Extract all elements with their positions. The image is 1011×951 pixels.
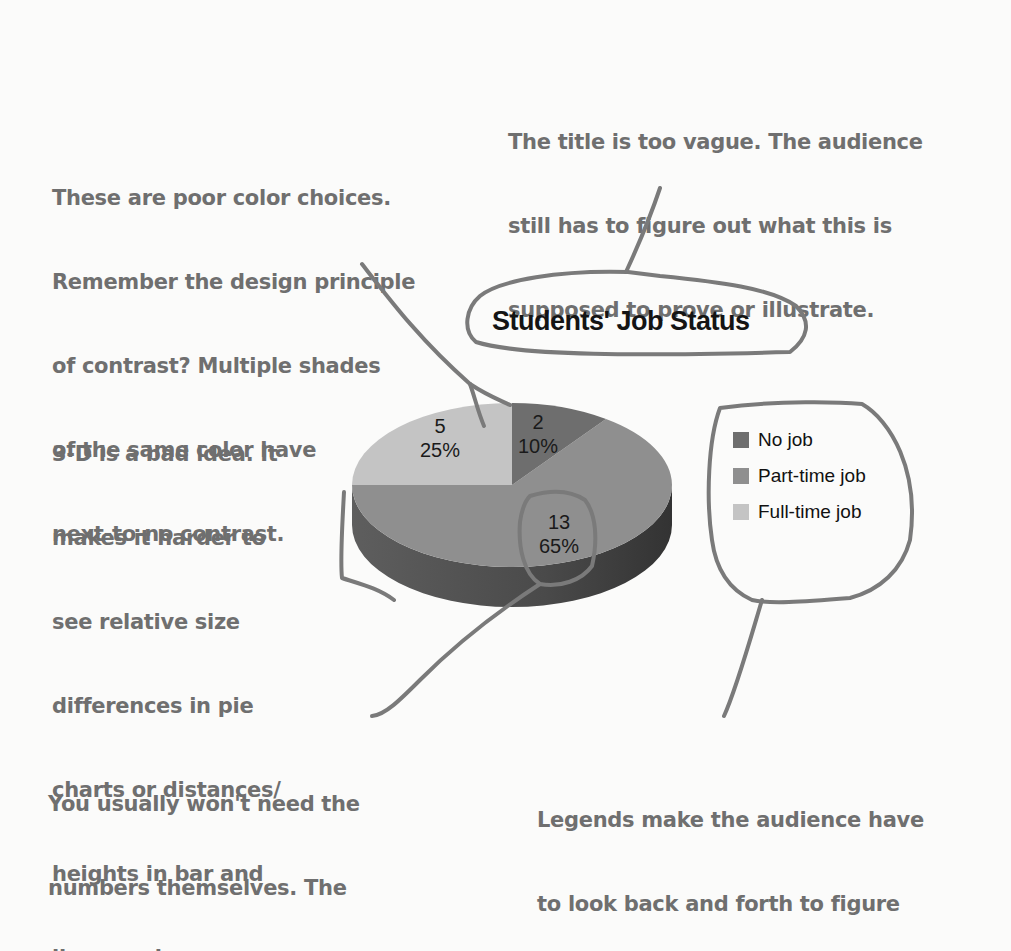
chart-title: Students' Job Status [492,306,749,337]
chart-legend: No job Part-time job Full-time job [733,422,866,530]
slice-percent: 10% [508,434,568,458]
slice-percent: 65% [524,534,594,558]
legend-swatch-icon [733,504,749,520]
legend-label: Full-time job [758,501,861,523]
legend-item-full-time: Full-time job [733,494,866,530]
slice-label-part-time: 13 65% [524,510,594,558]
legend-item-no-job: No job [733,422,866,458]
slice-count: 5 [410,414,470,438]
title-pointer-line [626,188,660,272]
legend-pointer-line [724,600,762,716]
slice-percent: 25% [410,438,470,462]
legend-item-part-time: Part-time job [733,458,866,494]
legend-swatch-icon [733,468,749,484]
slice-count: 2 [508,410,568,434]
slice-label-full-time: 5 25% [410,414,470,462]
legend-label: Part-time job [758,465,866,487]
color-pointer-line [362,264,510,405]
legend-swatch-icon [733,432,749,448]
slice-label-no-job: 2 10% [508,410,568,458]
slice-count: 13 [524,510,594,534]
legend-label: No job [758,429,813,451]
